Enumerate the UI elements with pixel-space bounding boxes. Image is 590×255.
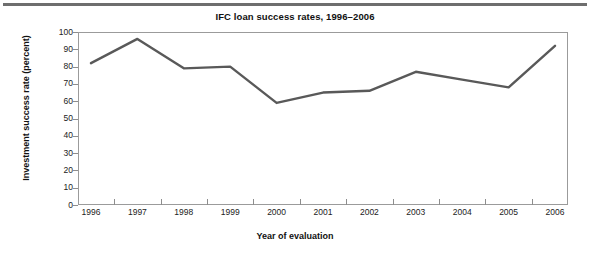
chart-figure: IFC loan success rates, 1996–2006 Invest… bbox=[0, 0, 590, 255]
x-tick-label: 1996 bbox=[82, 208, 101, 217]
y-tick-label: 100 bbox=[59, 28, 73, 37]
x-tick-label: 2000 bbox=[267, 208, 286, 217]
y-tick-label: 70 bbox=[64, 79, 73, 88]
y-axis-title: Investment success rate (percent) bbox=[21, 18, 31, 198]
y-tick-label: 60 bbox=[64, 97, 73, 106]
y-tick-label: 30 bbox=[64, 149, 73, 158]
data-series-line bbox=[78, 32, 568, 205]
x-tick-label: 2005 bbox=[499, 208, 518, 217]
x-tick-label: 1997 bbox=[128, 208, 147, 217]
x-tick-label: 2001 bbox=[314, 208, 333, 217]
x-tick-label: 1998 bbox=[174, 208, 193, 217]
x-tick-label: 1999 bbox=[221, 208, 240, 217]
y-tick-label: 90 bbox=[64, 45, 73, 54]
y-tick-label: 80 bbox=[64, 62, 73, 71]
top-rule-divider bbox=[3, 3, 587, 6]
y-tick-label: 50 bbox=[64, 114, 73, 123]
series-polyline bbox=[91, 39, 555, 103]
x-tick-label: 2002 bbox=[360, 208, 379, 217]
x-axis-title: Year of evaluation bbox=[0, 231, 590, 241]
y-axis-tick-labels: 1009080706050403020100 bbox=[40, 32, 73, 205]
chart-title: IFC loan success rates, 1996–2006 bbox=[0, 11, 590, 22]
y-tick-mark bbox=[73, 205, 78, 206]
y-tick-label: 10 bbox=[64, 183, 73, 192]
x-tick-label: 2003 bbox=[406, 208, 425, 217]
x-tick-label: 2006 bbox=[546, 208, 565, 217]
y-tick-label: 20 bbox=[64, 166, 73, 175]
x-tick-label: 2004 bbox=[453, 208, 472, 217]
x-axis-tick-labels: 1996199719981999200020012002200320042005… bbox=[78, 208, 568, 222]
y-tick-label: 40 bbox=[64, 131, 73, 140]
